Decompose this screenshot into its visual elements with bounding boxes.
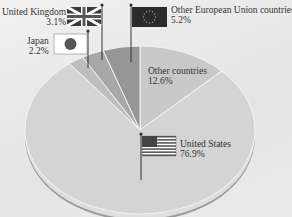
eu-flag-star [154, 13, 155, 14]
label-other-eu: Other European Union countries 5.2% [171, 5, 292, 25]
label-other-countries: Other countries 12.6% [148, 66, 207, 86]
uk-flag-pole-tip [100, 3, 103, 6]
pie-chart [0, 0, 292, 217]
chart-stage: United Kingdom 3.1% Japan 2.2% Other Eur… [0, 0, 292, 217]
eu-flag-star [143, 16, 144, 17]
label-united-kingdom: United Kingdom 3.1% [2, 7, 66, 27]
label-uk-name: United Kingdom [2, 7, 66, 17]
label-japan: Japan 2.2% [27, 36, 49, 56]
label-other-name: Other countries [148, 66, 207, 76]
eu-flag-icon [132, 7, 167, 27]
eu-flag-star [154, 19, 155, 20]
eu-flag-star [152, 11, 153, 12]
eu-flag-star [146, 11, 147, 12]
eu-flag-star [144, 19, 145, 20]
us-flag-stripe [142, 148, 176, 150]
eu-flag-star [146, 21, 147, 22]
japan-flag-sun [65, 38, 77, 50]
us-flag-stripe [142, 154, 176, 156]
label-uk-value: 3.1% [2, 17, 66, 27]
label-eu-value: 5.2% [171, 15, 292, 25]
label-japan-name: Japan [27, 36, 49, 46]
eu-flag-star [152, 21, 153, 22]
us-flag-pole-tip [139, 132, 142, 135]
us-flag-stripe [142, 151, 176, 153]
eu-flag-star [149, 10, 150, 11]
eu-flag-pole-tip [129, 3, 132, 6]
uk-flag-hred [67, 15, 101, 18]
eu-flag-star [144, 13, 145, 14]
label-eu-name: Other European Union countries [171, 5, 292, 15]
us-flag-canton [142, 136, 157, 147]
label-us-value: 76.9% [180, 149, 231, 159]
label-united-states: United States 76.9% [180, 139, 231, 159]
label-other-value: 12.6% [148, 76, 207, 86]
label-japan-value: 2.2% [27, 46, 49, 56]
eu-flag-star [149, 22, 150, 23]
eu-flag-star [155, 16, 156, 17]
japan-flag-pole-tip [86, 29, 89, 32]
label-us-name: United States [180, 139, 231, 149]
